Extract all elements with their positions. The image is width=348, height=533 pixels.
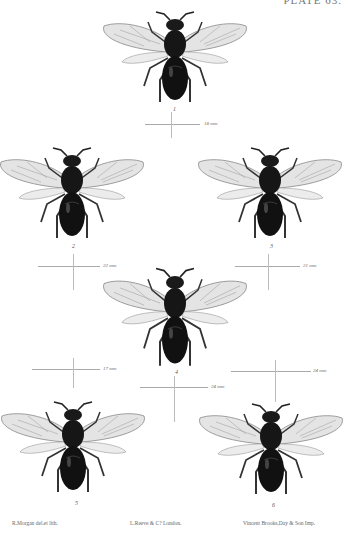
plate-title: PLATE 63. [284, 0, 343, 6]
credit-publisher: L.Reeve & C? London. [130, 520, 181, 526]
scale-label-6: 24 mm [313, 368, 326, 373]
scale-bar-3: 21 mm [235, 252, 345, 292]
bee-figure-2 [0, 142, 147, 242]
scale-label-1: 18 mm [204, 121, 217, 126]
bee-figure-4 [100, 262, 250, 370]
scale-label-4: 24 mm [211, 384, 224, 389]
scale-bar-5: 17 mm [30, 356, 120, 396]
credit-artist: R.Morgan del.et lith. [12, 520, 58, 526]
figure-label-3: 3 [270, 243, 273, 249]
bee-figure-6 [196, 398, 346, 498]
figure-label-2: 2 [72, 243, 75, 249]
bee-figure-5 [0, 396, 148, 496]
bee-figure-1 [100, 6, 250, 106]
scale-bar-1: 18 mm [145, 110, 235, 140]
figure-label-5: 5 [75, 500, 78, 506]
scale-label-5: 17 mm [103, 366, 116, 371]
figure-label-6: 6 [272, 502, 275, 508]
scale-label-3: 21 mm [303, 263, 316, 268]
bee-figure-3 [195, 142, 345, 242]
credit-printer: Vincent Brooks,Day & Son Imp. [243, 520, 315, 526]
